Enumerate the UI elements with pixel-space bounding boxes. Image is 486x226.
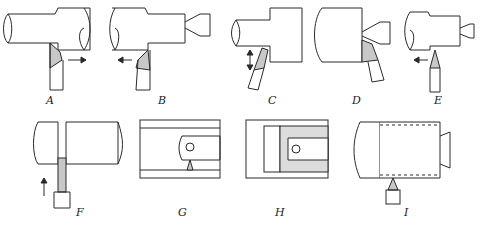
label-b: B — [158, 94, 166, 107]
panel-b — [110, 8, 210, 90]
label-h: H — [275, 206, 285, 219]
label-c: C — [268, 94, 276, 107]
label-a: A — [46, 94, 54, 107]
label-e: E — [434, 94, 442, 107]
lathe-operations-diagram — [0, 0, 486, 226]
panel-c — [232, 8, 303, 90]
panel-e — [405, 12, 474, 92]
panel-a — [4, 8, 91, 90]
label-g: G — [178, 206, 187, 219]
panel-i — [354, 122, 450, 204]
panel-h — [246, 120, 328, 178]
label-i: I — [404, 206, 408, 219]
panel-d — [315, 8, 391, 82]
panel-f — [34, 122, 123, 208]
label-f: F — [76, 206, 84, 219]
label-d: D — [352, 94, 361, 107]
panel-g — [140, 120, 220, 178]
